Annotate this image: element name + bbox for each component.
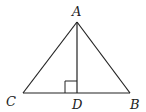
label-d: D: [71, 97, 83, 112]
label-a: A: [71, 4, 81, 19]
triangle-diagram: A C D B: [0, 0, 146, 112]
side-ab: [77, 22, 130, 93]
side-ca: [23, 22, 77, 93]
right-angle-mark: [65, 81, 77, 93]
label-c: C: [6, 94, 16, 109]
label-b: B: [129, 97, 140, 112]
